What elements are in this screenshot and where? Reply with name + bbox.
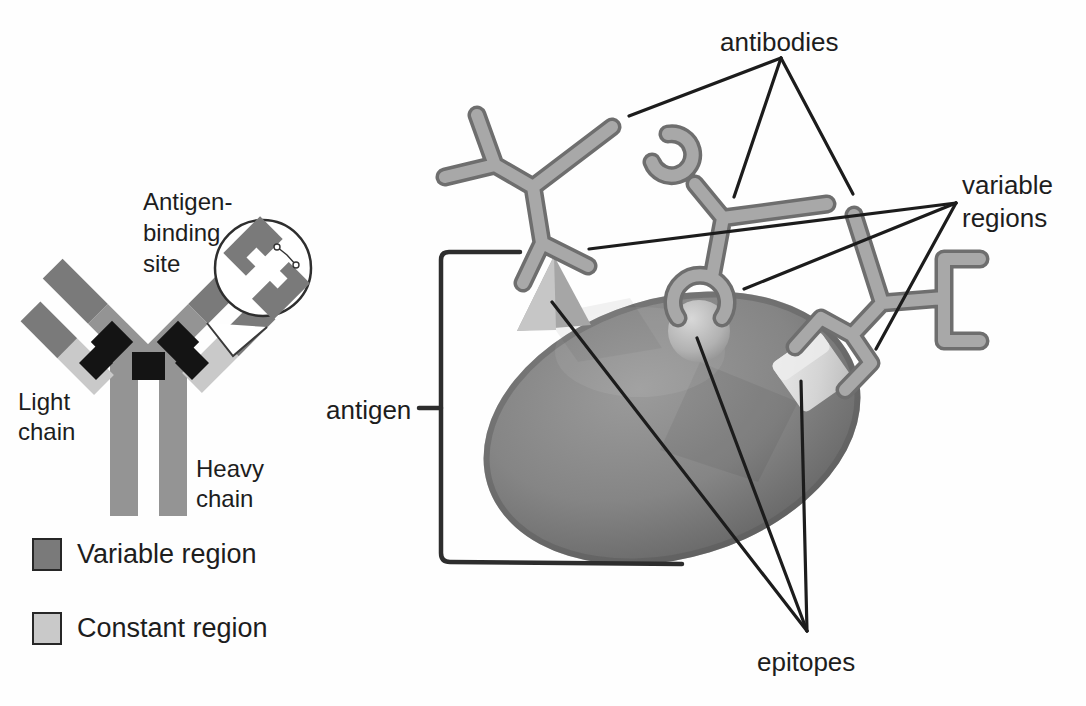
antigen-antibody-complex bbox=[419, 58, 980, 631]
legend-label: Constant region bbox=[77, 613, 268, 644]
label-line: Heavy bbox=[196, 454, 264, 484]
label-line: chain bbox=[18, 417, 75, 447]
constant-region-swatch bbox=[32, 612, 62, 645]
bond-dot bbox=[274, 244, 280, 250]
antibody-antigen-figure: Antigen- binding site Light chain Heavy … bbox=[0, 0, 1086, 706]
bond-dot bbox=[293, 262, 299, 268]
variable-region-swatch bbox=[32, 538, 62, 571]
label-line: binding bbox=[143, 217, 232, 248]
pointer-antibodies-1 bbox=[629, 58, 781, 116]
diagram-canvas bbox=[0, 0, 1086, 706]
label-line: chain bbox=[196, 484, 264, 514]
hinge-bar bbox=[132, 352, 165, 380]
label-line: Light bbox=[18, 387, 75, 417]
label-light-chain: Light chain bbox=[18, 387, 75, 447]
legend-item-variable-region: Variable region bbox=[32, 538, 257, 571]
label-antibodies: antibodies bbox=[720, 27, 839, 58]
label-line: variable bbox=[962, 169, 1053, 202]
label-antigen: antigen bbox=[326, 395, 411, 426]
legend-item-constant-region: Constant region bbox=[32, 612, 268, 645]
label-antigen-binding-site: Antigen- binding site bbox=[143, 186, 232, 279]
label-heavy-chain: Heavy chain bbox=[196, 454, 264, 514]
antibody-fork-tips bbox=[445, 115, 612, 283]
label-variable-regions: variable regions bbox=[962, 169, 1053, 235]
legend-label: Variable region bbox=[77, 539, 257, 570]
label-line: regions bbox=[962, 202, 1053, 235]
label-epitopes: epitopes bbox=[757, 647, 855, 678]
pointer-antibodies-3 bbox=[781, 58, 853, 194]
antibody-cup-tips bbox=[652, 134, 827, 318]
label-line: site bbox=[143, 248, 232, 279]
pointer-antibodies-2 bbox=[734, 58, 781, 197]
label-line: Antigen- bbox=[143, 186, 232, 217]
